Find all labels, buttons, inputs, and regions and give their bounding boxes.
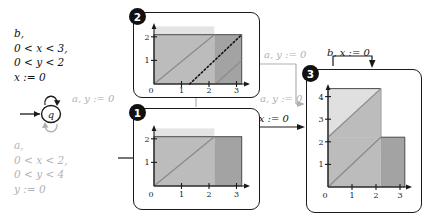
edge-label-a-left: a, y := 0 (72, 93, 114, 104)
zone-light (154, 26, 214, 34)
xtick-2: 2 (206, 86, 211, 94)
xtick-1: 1 (349, 191, 354, 200)
zone-dark (214, 137, 241, 186)
panel-2-badge: 2 (129, 8, 146, 25)
ytick-1: 1 (144, 158, 149, 167)
xtick-2: 2 (206, 190, 211, 199)
guard-top-line-3: x := 0 (14, 70, 118, 85)
ytick-1: 1 (318, 160, 323, 169)
ytick-1: 1 (144, 56, 149, 65)
initial-arrow-icon (20, 111, 40, 117)
zone-dark (214, 35, 241, 84)
zone-light (154, 128, 214, 136)
ytick-2: 2 (318, 138, 323, 147)
xtick-0: 0 (148, 86, 153, 94)
figure-root: b, 0 < x < 3, 0 < y < 2 x := 0 q (0, 0, 425, 223)
xtick-3: 3 (397, 191, 402, 200)
xtick-1: 1 (179, 86, 184, 94)
self-loop-top-icon (45, 96, 61, 106)
zone-lower-dark (381, 137, 405, 187)
ytick-2: 2 (144, 135, 149, 144)
xtick-1: 1 (179, 190, 184, 199)
xtick-3: 3 (234, 190, 239, 199)
automaton-guard-bottom: a, 0 < x < 2, 0 < y < 4 y := 0 (14, 138, 118, 196)
xtick-0: 0 (148, 190, 153, 199)
ytick-3: 3 (318, 115, 323, 124)
ytick-4: 4 (318, 93, 323, 102)
automaton-guard-top: b, 0 < x < 3, 0 < y < 2 x := 0 (14, 26, 118, 84)
edge-label-a-mid: a, y := 0 (264, 49, 306, 60)
panel-1-plot: 0 1 2 3 1 2 (140, 114, 252, 204)
guard-bottom-line-2: 0 < y < 4 (14, 167, 118, 182)
guard-bottom-line-1: 0 < x < 2, (14, 153, 118, 168)
panel-3-plot: 0 1 2 3 1 2 3 4 (312, 73, 416, 205)
xtick-2: 2 (373, 191, 378, 200)
panel-3-badge: 3 (302, 65, 319, 82)
panel-1-badge: 1 (129, 104, 146, 121)
guard-bottom-line-3: y := 0 (14, 182, 118, 197)
guard-top-line-0: b, (14, 26, 118, 41)
arrow-panel1-to-panel3-icon (259, 124, 305, 130)
guard-top-line-2: 0 < y < 2 (14, 55, 118, 70)
xtick-0: 0 (322, 191, 327, 200)
ytick-2: 2 (144, 33, 149, 42)
edge-label-a-low: a, y := 0 (260, 93, 302, 104)
state-label: q (48, 109, 54, 120)
panel-2-plot: 0 1 2 3 1 2 (140, 16, 252, 94)
xtick-3: 3 (234, 86, 239, 94)
guard-top-line-1: 0 < x < 3, (14, 41, 118, 56)
self-loop-bottom-icon (42, 122, 57, 132)
edge-label-b-top: b, x := 0 (327, 47, 370, 58)
guard-bottom-line-0: a, (14, 138, 118, 153)
